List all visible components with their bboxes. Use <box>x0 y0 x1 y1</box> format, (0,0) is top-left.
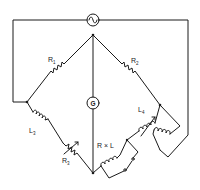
r3-sub: 3 <box>67 161 70 166</box>
galvanometer-label: G <box>90 100 95 107</box>
ac-source-icon <box>87 14 99 26</box>
unknown-label: R × L <box>97 142 114 149</box>
bridge-circuit-diagram: R 1 R 2 G L 3 R 3 R × L <box>0 0 200 190</box>
supply-wire-right <box>99 20 188 157</box>
inductor-l3 <box>27 102 63 143</box>
resistor-r1 <box>27 35 93 102</box>
variable-resistor-r3 <box>63 142 93 173</box>
r1-sub: 1 <box>53 60 56 65</box>
r2-sub: 2 <box>136 61 139 66</box>
l4-sub: 4 <box>142 110 145 115</box>
resistor-r2 <box>93 35 160 105</box>
coupled-coil-secondary <box>153 105 180 150</box>
l3-sub: 3 <box>33 131 36 136</box>
